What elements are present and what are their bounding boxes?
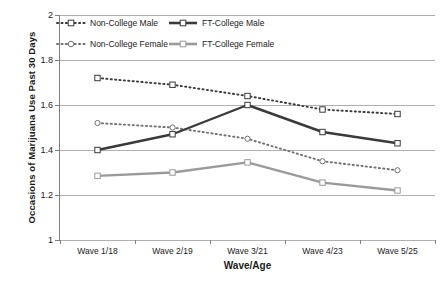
x-tick-mark: [210, 240, 211, 244]
legend-label: Non-College Female: [90, 39, 168, 49]
data-point-marker: [245, 102, 250, 107]
x-tick-label: Wave 5/25: [377, 246, 417, 256]
legend-swatch-icon: [56, 39, 86, 49]
legend-label: FT-College Male: [202, 18, 264, 28]
legend-item-non-college-male[interactable]: Non-College Male: [56, 18, 158, 28]
chart-legend: Non-College MaleFT-College MaleNon-Colle…: [56, 18, 261, 56]
data-point-marker: [320, 129, 325, 134]
legend-swatch-icon: [56, 18, 86, 28]
data-point-marker: [395, 111, 400, 116]
legend-swatch-icon: [168, 18, 198, 28]
data-point-marker: [95, 173, 100, 178]
data-point-marker: [395, 188, 400, 193]
legend-label: Non-College Male: [90, 18, 158, 28]
y-tick-label: 1: [48, 235, 53, 245]
y-axis-title: Occasions of Marijuana Use Past 30 Days: [26, 13, 37, 243]
series-non-college-male: [95, 75, 400, 116]
data-point-marker: [170, 82, 175, 87]
data-point-marker: [320, 159, 325, 164]
series-ft-college-male: [95, 102, 400, 152]
x-tick-mark: [360, 240, 361, 244]
data-point-marker: [95, 120, 100, 125]
x-tick-mark: [435, 240, 436, 244]
series-line: [98, 105, 398, 150]
data-point-marker: [170, 125, 175, 130]
x-tick-label: Wave 4/23: [302, 246, 342, 256]
legend-label: FT-College Female: [202, 39, 274, 49]
line-chart: Occasions of Marijuana Use Past 30 Days …: [0, 0, 444, 284]
x-tick-label: Wave 1/18: [77, 246, 117, 256]
legend-item-ft-college-male[interactable]: FT-College Male: [168, 18, 264, 28]
gridline: [60, 240, 435, 241]
data-point-marker: [395, 168, 400, 173]
y-tick-label: 1.6: [40, 100, 53, 110]
y-tick-label: 2: [48, 10, 53, 20]
data-point-marker: [245, 160, 250, 165]
x-tick-mark: [285, 240, 286, 244]
legend-swatch-icon: [168, 39, 198, 49]
y-tick-label: 1.4: [40, 145, 53, 155]
data-point-marker: [245, 93, 250, 98]
y-tick-label: 1.2: [40, 190, 53, 200]
x-tick-label: Wave 2/19: [152, 246, 192, 256]
legend-item-non-college-female[interactable]: Non-College Female: [56, 39, 168, 49]
data-point-marker: [170, 132, 175, 137]
data-point-marker: [170, 170, 175, 175]
data-point-marker: [320, 107, 325, 112]
x-axis-title: Wave/Age: [60, 260, 435, 271]
series-line: [98, 162, 398, 190]
x-tick-mark: [60, 240, 61, 244]
data-point-marker: [320, 180, 325, 185]
x-tick-mark: [135, 240, 136, 244]
data-point-marker: [395, 141, 400, 146]
data-point-marker: [245, 136, 250, 141]
legend-item-ft-college-female[interactable]: FT-College Female: [168, 39, 274, 49]
data-point-marker: [95, 75, 100, 80]
data-point-marker: [95, 147, 100, 152]
x-tick-label: Wave 3/21: [227, 246, 267, 256]
y-tick-label: 1.8: [40, 55, 53, 65]
